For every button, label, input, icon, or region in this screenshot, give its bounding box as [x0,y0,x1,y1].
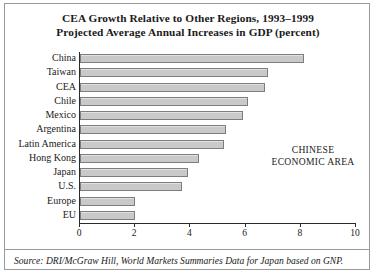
category-label: Latin America [19,138,76,150]
bar [80,111,243,120]
chart-title-line-2: Projected Average Annual Increases in GD… [5,25,371,39]
x-tick-label: 4 [174,228,204,238]
x-tick-label: 10 [340,228,370,238]
bar-row: U.S. [80,182,356,191]
category-label: U.S. [58,180,76,192]
category-label: Taiwan [47,66,76,78]
category-label: Hong Kong [29,152,76,164]
bar [80,68,268,77]
bar [80,211,135,220]
bar [80,140,224,149]
x-axis-line [79,223,356,224]
bar-row: Taiwan [80,68,356,77]
bar [80,197,135,206]
bar [80,168,188,177]
bar [80,182,182,191]
chinese-economic-area-annotation: CHINESE ECONOMIC AREA [257,144,369,168]
annotation-line-2: ECONOMIC AREA [257,156,369,168]
bar-row: Japan [80,168,356,177]
x-tick-label: 0 [64,228,94,238]
source-note: Source: DRI/McGraw Hill, World Markets S… [14,254,364,267]
category-label: Europe [47,195,76,207]
bar [80,125,226,134]
bar-row: Mexico [80,111,356,120]
x-tick-label: 2 [119,228,149,238]
annotation-line-1: CHINESE [257,144,369,156]
category-label: Mexico [45,109,76,121]
x-tick [355,223,356,227]
x-tick [189,223,190,227]
bar-row: Chile [80,97,356,106]
bar [80,54,304,63]
plot-area: 0246810 ChinaTaiwanCEAChileMexicoArgenti… [79,52,355,223]
bar-row: Argentina [80,125,356,134]
category-label: CEA [56,81,76,93]
x-tick [300,223,301,227]
bar-row: China [80,54,356,63]
category-label: EU [63,209,76,221]
x-tick [79,223,80,227]
bar [80,154,199,163]
category-label: Chile [54,95,76,107]
bar-row: EU [80,211,356,220]
chart-title: CEA Growth Relative to Other Regions, 19… [5,11,371,39]
bar-row: Europe [80,197,356,206]
bar-row: CEA [80,83,356,92]
category-label: Japan [53,166,76,178]
category-label: China [52,52,76,64]
figure-frame: CEA Growth Relative to Other Regions, 19… [4,3,370,270]
bar [80,97,248,106]
x-tick [134,223,135,227]
bar [80,83,265,92]
category-label: Argentina [36,123,76,135]
source-divider [5,249,369,250]
x-tick-label: 8 [285,228,315,238]
x-tick-label: 6 [230,228,260,238]
chart-title-line-1: CEA Growth Relative to Other Regions, 19… [5,11,371,25]
x-tick [245,223,246,227]
